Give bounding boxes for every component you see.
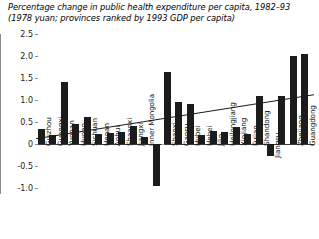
- y-tick-label: 1.5: [3, 74, 33, 83]
- x-axis-label: Guangdong: [308, 105, 317, 146]
- y-tick-label: 0.5: [3, 118, 33, 127]
- y-tick-mark: [35, 56, 38, 57]
- y-tick-mark: [35, 188, 38, 189]
- y-tick-mark: [35, 34, 38, 35]
- bar: [278, 96, 285, 144]
- x-axis-label: Inner Mongolia: [147, 94, 156, 146]
- y-tick-mark: [35, 100, 38, 101]
- y-tick-label: -1.0: [3, 184, 33, 193]
- bar: [153, 144, 160, 186]
- chart-title-line-2: (1978 yuan; provinces ranked by 1993 GDP…: [8, 13, 314, 24]
- x-axis-label: Shandong: [262, 111, 271, 146]
- y-axis-tick-labels: 2.52.01.51.00.50-0.5-1.0: [0, 0, 33, 239]
- y-tick-label: 0: [3, 140, 33, 149]
- y-tick-label: 2.5: [3, 30, 33, 39]
- y-tick-label: -0.5: [3, 162, 33, 171]
- chart-title: Percentage change in public health expen…: [8, 2, 314, 23]
- y-tick-mark: [35, 166, 38, 167]
- chart-page: Percentage change in public health expen…: [0, 0, 319, 239]
- y-tick-mark: [35, 144, 38, 145]
- y-tick-label: 2.0: [3, 52, 33, 61]
- bar-series: GuizhouGuangxiYunnanHunanSichuanHenanAnh…: [36, 34, 314, 192]
- y-tick-label: 1.0: [3, 96, 33, 105]
- plot-area: GuizhouGuangxiYunnanHunanSichuanHenanAnh…: [36, 34, 314, 192]
- chart-title-line-1: Percentage change in public health expen…: [8, 2, 290, 12]
- y-tick-mark: [35, 122, 38, 123]
- y-tick-mark: [35, 78, 38, 79]
